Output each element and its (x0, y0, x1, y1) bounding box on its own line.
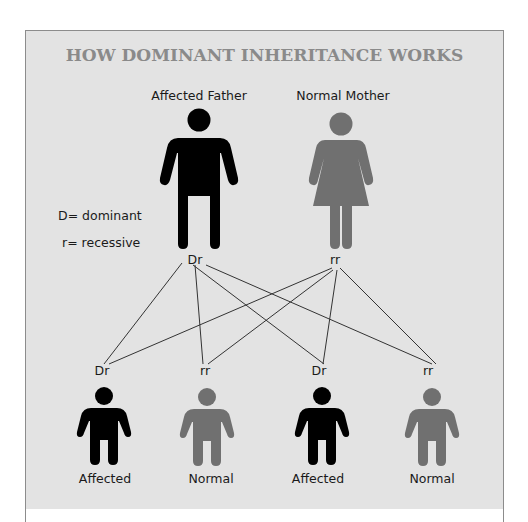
child-genotype-3: Dr (312, 363, 327, 378)
child-status-4: Normal (409, 471, 454, 486)
female-figure-icon (309, 113, 373, 250)
child-genotype-2: rr (200, 363, 210, 378)
mother-genotype: rr (330, 252, 340, 267)
child-genotype-4: rr (423, 363, 433, 378)
child-genotype-1: Dr (95, 363, 110, 378)
line-mother-child4 (340, 268, 436, 364)
child-figure-icon-3 (295, 387, 349, 465)
father-label: Affected Father (151, 88, 247, 103)
legend-recessive: r= recessive (62, 235, 140, 250)
child-status-3: Affected (292, 471, 344, 486)
line-father-child2 (195, 265, 203, 364)
legend-dominant: D= dominant (58, 208, 142, 223)
line-mother-child1 (109, 268, 332, 364)
male-figure-icon (160, 109, 238, 250)
inheritance-lines (104, 263, 436, 364)
child-status-1: Affected (79, 471, 131, 486)
mother-label: Normal Mother (296, 88, 389, 103)
father-genotype: Dr (188, 252, 203, 267)
child-figure-icon-1 (77, 387, 131, 465)
child-figure-icon-2 (180, 388, 234, 466)
child-status-2: Normal (188, 471, 233, 486)
line-father-child4 (206, 265, 432, 364)
child-figure-icon-4 (405, 388, 459, 466)
line-mother-child2 (208, 270, 333, 364)
